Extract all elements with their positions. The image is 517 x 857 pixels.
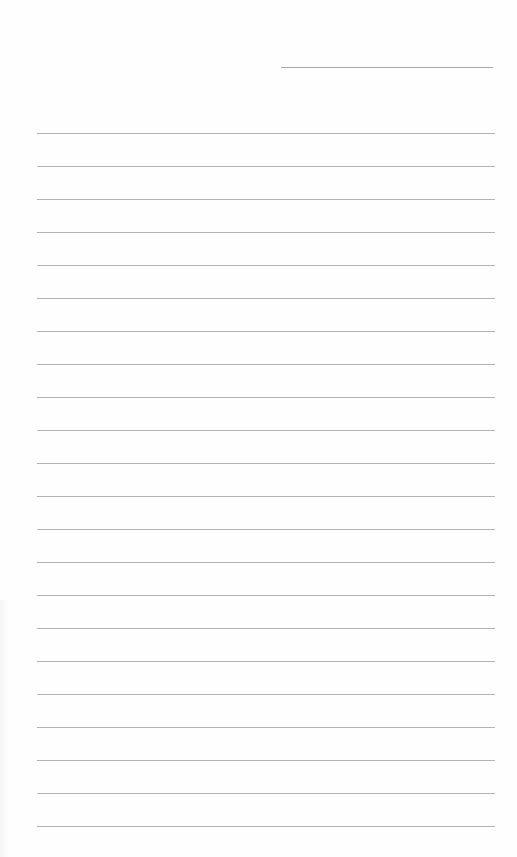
- ruled-line: [37, 595, 495, 596]
- ruled-line: [37, 430, 495, 431]
- ruled-line: [37, 463, 495, 464]
- ruled-line: [37, 826, 495, 827]
- ruled-line: [37, 760, 495, 761]
- ruled-line: [37, 364, 495, 365]
- ruled-line: [37, 199, 495, 200]
- header-line: [281, 67, 493, 68]
- ruled-line: [37, 331, 495, 332]
- ruled-line: [37, 265, 495, 266]
- ruled-line: [37, 562, 495, 563]
- ruled-line: [37, 232, 495, 233]
- ruled-line: [37, 529, 495, 530]
- ruled-line: [37, 694, 495, 695]
- page-edge-shadow: [0, 600, 10, 857]
- ruled-line: [37, 793, 495, 794]
- ruled-line: [37, 298, 495, 299]
- ruled-line: [37, 166, 495, 167]
- ruled-line: [37, 661, 495, 662]
- lined-paper-page: [0, 0, 517, 857]
- ruled-line: [37, 397, 495, 398]
- ruled-line: [37, 727, 495, 728]
- ruled-line: [37, 496, 495, 497]
- ruled-line: [37, 133, 495, 134]
- ruled-line: [37, 628, 495, 629]
